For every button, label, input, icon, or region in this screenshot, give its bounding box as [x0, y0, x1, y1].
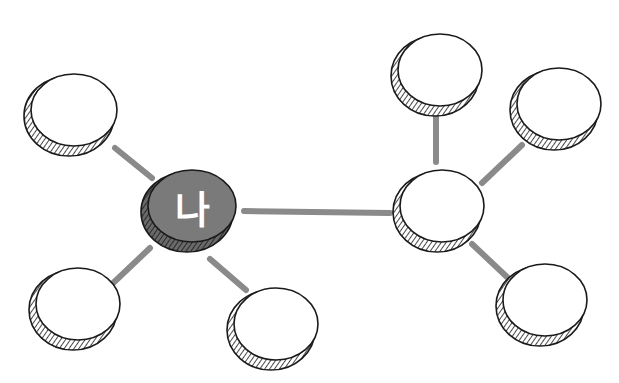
- edge-hub-bottom-right: [472, 244, 507, 277]
- center-node-label: 나: [175, 179, 210, 234]
- node-top-right-2: [510, 68, 601, 150]
- edge-me-hub: [244, 211, 390, 213]
- node-left-top: [24, 74, 117, 156]
- nodes-group: [24, 34, 601, 370]
- edge-me-left-top: [115, 148, 152, 178]
- edge-hub-top-right-2: [482, 145, 522, 183]
- node-bottom-right: [496, 264, 587, 346]
- node-bottom-middle: [227, 288, 318, 370]
- edge-me-bottom-middle: [210, 259, 246, 290]
- node-hub: [393, 170, 484, 252]
- node-left-bottom: [29, 268, 120, 350]
- edge-me-left-bottom: [110, 248, 150, 286]
- node-top-right-1: [391, 34, 482, 116]
- mind-map-canvas: [0, 0, 619, 383]
